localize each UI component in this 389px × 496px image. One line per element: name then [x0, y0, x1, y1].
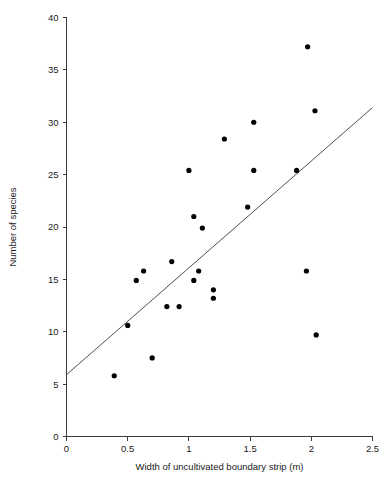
data-point: [164, 304, 169, 309]
data-point: [200, 225, 205, 230]
y-tick-label: 5: [53, 379, 58, 390]
y-tick-label: 20: [48, 221, 59, 232]
data-point: [305, 44, 310, 49]
data-point: [245, 204, 250, 209]
data-point: [211, 296, 216, 301]
data-point: [191, 214, 196, 219]
x-axis-title: Width of uncultivated boundary strip (m): [136, 461, 304, 472]
plot-canvas: 051015202530354000.511.522.5Width of unc…: [0, 0, 389, 496]
x-tick-label: 2: [309, 443, 314, 454]
regression-line: [67, 108, 373, 375]
y-axis-title: Number of species: [7, 187, 18, 266]
x-tick-label: 1: [186, 443, 191, 454]
y-tick-label: 15: [48, 274, 59, 285]
data-point: [314, 332, 319, 337]
x-tick-label: 2.5: [366, 443, 379, 454]
x-tick-label: 0: [64, 443, 69, 454]
y-tick-label: 25: [48, 169, 59, 180]
data-point: [134, 278, 139, 283]
data-point: [125, 323, 130, 328]
data-point: [211, 287, 216, 292]
data-point: [312, 108, 317, 113]
data-point: [112, 373, 117, 378]
data-point: [150, 355, 155, 360]
data-point: [251, 168, 256, 173]
data-point: [169, 259, 174, 264]
y-tick-label: 40: [48, 12, 59, 23]
x-tick-label: 1.5: [243, 443, 256, 454]
data-point: [196, 268, 201, 273]
data-point: [304, 268, 309, 273]
y-tick-label: 0: [53, 431, 58, 442]
y-tick-label: 30: [48, 117, 59, 128]
data-point: [186, 168, 191, 173]
x-tick-label: 0.5: [121, 443, 134, 454]
data-point: [191, 278, 196, 283]
y-tick-label: 10: [48, 326, 59, 337]
y-tick-label: 35: [48, 64, 59, 75]
scatter-plot-figure: 051015202530354000.511.522.5Width of unc…: [0, 0, 389, 496]
data-point: [294, 168, 299, 173]
data-point: [177, 304, 182, 309]
data-point: [251, 120, 256, 125]
data-point: [141, 268, 146, 273]
data-point: [222, 136, 227, 141]
